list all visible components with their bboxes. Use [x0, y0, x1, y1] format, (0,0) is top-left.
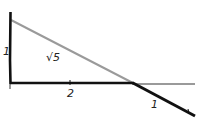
vertical-leg-label: 1	[3, 45, 10, 58]
extension-label: 1	[151, 98, 158, 111]
extension-segment-line	[133, 83, 195, 116]
hypotenuse-label: √5	[46, 51, 60, 64]
hypotenuse-line	[11, 20, 133, 83]
vertical-leg-line	[10, 12, 11, 84]
horizontal-leg-label: 2	[67, 87, 74, 100]
triangle-diagram: 1 √5 2 1	[0, 0, 199, 121]
